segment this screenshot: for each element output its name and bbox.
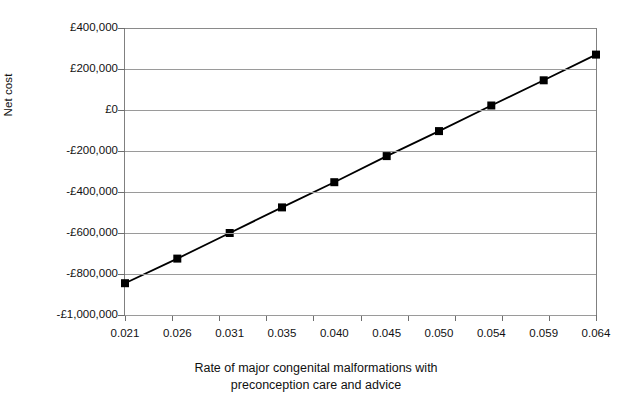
gridline <box>125 192 596 193</box>
data-point-marker <box>383 152 391 160</box>
x-axis-title-line2: preconception care and advice <box>96 377 536 394</box>
gridline <box>125 151 596 152</box>
y-axis-tick <box>118 69 125 70</box>
x-axis-tick-label: 0.040 <box>304 327 364 339</box>
data-point-marker <box>278 203 286 211</box>
y-axis-tick-label: -£200,000 <box>8 144 118 156</box>
y-axis-tick <box>118 28 125 29</box>
x-axis-tick-label: 0.026 <box>147 327 207 339</box>
y-axis-tick-labels: £400,000£200,000£0-£200,000-£400,000-£60… <box>6 0 118 340</box>
gridline <box>125 110 596 111</box>
y-axis-tick-label: -£600,000 <box>8 226 118 238</box>
y-axis-tick <box>118 192 125 193</box>
x-axis-tick <box>361 316 362 321</box>
series-line <box>125 55 596 284</box>
x-axis-tick-label: 0.031 <box>200 327 260 339</box>
figure-caption-partial <box>18 410 438 418</box>
x-axis-tick <box>266 316 267 321</box>
data-point-marker <box>330 178 338 186</box>
gridline <box>125 69 596 70</box>
y-axis-tick <box>118 110 125 111</box>
data-point-marker <box>121 279 129 287</box>
x-axis-tick-label: 0.050 <box>409 327 469 339</box>
plot-area <box>125 28 596 315</box>
gridline <box>125 274 596 275</box>
x-axis-tick-label: 0.045 <box>357 327 417 339</box>
x-axis-tick-label: 0.021 <box>95 327 155 339</box>
y-axis-tick-label: £0 <box>8 103 118 115</box>
x-axis-tick <box>125 316 126 321</box>
x-axis-tick <box>172 316 173 321</box>
y-axis-tick <box>118 233 125 234</box>
y-axis-tick-label: £200,000 <box>8 62 118 74</box>
gridline <box>125 233 596 234</box>
data-point-marker <box>435 127 443 135</box>
x-axis-tick-label: 0.064 <box>566 327 622 339</box>
x-axis-tick <box>596 316 597 321</box>
x-axis-tick <box>455 316 456 321</box>
x-axis-tick <box>219 316 220 321</box>
plot-right-border <box>596 28 597 316</box>
x-axis-tick <box>408 316 409 321</box>
y-axis-tick-label: -£400,000 <box>8 185 118 197</box>
y-axis-tick-label: -£1,000,000 <box>8 308 118 320</box>
data-series-line <box>125 28 596 315</box>
x-axis-tick <box>549 316 550 321</box>
x-axis-tick-label: 0.059 <box>514 327 574 339</box>
y-axis-tick-label: £400,000 <box>8 21 118 33</box>
x-axis-title: Rate of major congenital malformations w… <box>96 360 536 394</box>
data-point-marker <box>540 76 548 84</box>
data-point-marker <box>487 102 495 110</box>
x-axis-tick-label: 0.054 <box>461 327 521 339</box>
x-axis-tick-label: 0.035 <box>252 327 312 339</box>
y-axis-tick <box>118 151 125 152</box>
y-axis-tick-label: -£800,000 <box>8 267 118 279</box>
x-axis-title-line1: Rate of major congenital malformations w… <box>96 360 536 377</box>
data-point-marker <box>173 255 181 263</box>
chart-container: Net cost £400,000£200,000£0-£200,000-£40… <box>0 0 622 418</box>
gridline <box>125 28 596 29</box>
x-axis-tick <box>313 316 314 321</box>
data-point-marker <box>592 51 600 59</box>
y-axis-tick <box>118 274 125 275</box>
x-axis-tick <box>502 316 503 321</box>
y-axis-tick <box>118 315 125 316</box>
